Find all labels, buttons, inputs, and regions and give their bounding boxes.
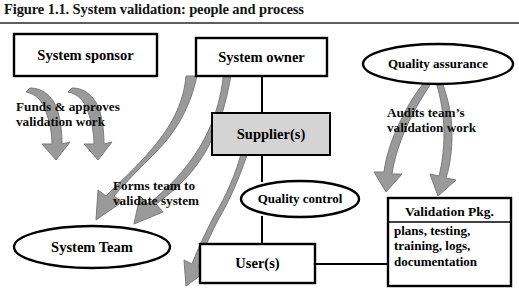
- arrow-audits-left: [374, 80, 432, 192]
- arrow-forms-team-large: [96, 76, 197, 220]
- figure-caption: Figure 1.1. System validation: people an…: [4, 1, 504, 20]
- figure-container: Figure 1.1. System validation: people an…: [0, 0, 519, 291]
- connector-lines: [262, 76, 390, 264]
- arrow-audits-right: [430, 82, 456, 196]
- node-shape-quality-assurance[interactable]: [363, 44, 513, 84]
- node-shape-users[interactable]: [200, 244, 315, 283]
- diagram-graphics: [0, 24, 519, 291]
- node-shape-system-sponsor[interactable]: [14, 34, 157, 76]
- arrow-funds-right: [68, 88, 112, 160]
- diagram-canvas: System sponsor System owner Supplier(s) …: [0, 24, 519, 291]
- node-shape-system-team[interactable]: [14, 226, 170, 268]
- arrow-funds-left: [26, 88, 70, 160]
- node-shape-system-owner[interactable]: [196, 38, 327, 76]
- node-shape-quality-control[interactable]: [241, 181, 359, 217]
- node-shape-validation-package[interactable]: [388, 198, 511, 286]
- node-shape-supplier[interactable]: [212, 113, 330, 155]
